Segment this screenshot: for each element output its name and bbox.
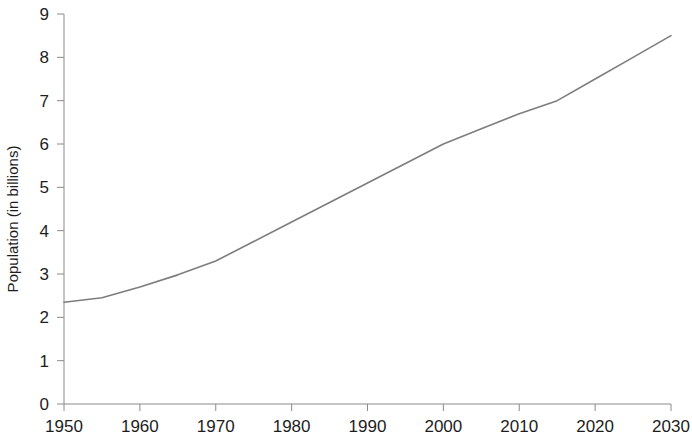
x-axis-tick-label: 1990: [349, 417, 387, 436]
y-axis-tick-label: 2: [40, 308, 49, 327]
y-axis-title-group: Population (in billions): [4, 146, 21, 293]
x-axis-tick-label: 2020: [576, 417, 614, 436]
y-axis-tick-label: 6: [40, 135, 49, 154]
x-axis-tick-label: 2010: [500, 417, 538, 436]
chart-canvas: 0123456789 19501960197019801990200020102…: [0, 0, 692, 438]
x-axis-tick-label: 1980: [273, 417, 311, 436]
y-axis-tick-label: 4: [40, 222, 49, 241]
y-axis-tick-label: 5: [40, 178, 49, 197]
series-line: [64, 36, 671, 303]
y-axis-tick-label: 9: [40, 5, 49, 24]
y-axis-tick-label: 3: [40, 265, 49, 284]
population-line-chart: 0123456789 19501960197019801990200020102…: [0, 0, 692, 438]
y-axis-title: Population (in billions): [4, 146, 21, 293]
x-axis-tick-label: 1960: [121, 417, 159, 436]
y-axis: 0123456789: [40, 5, 64, 414]
y-axis-tick-label: 8: [40, 48, 49, 67]
x-axis-tick-label: 2000: [424, 417, 462, 436]
x-axis: 195019601970198019902000201020202030: [45, 404, 690, 436]
x-axis-tick-label: 2030: [652, 417, 690, 436]
y-axis-tick-label: 0: [40, 395, 49, 414]
x-axis-tick-label: 1970: [197, 417, 235, 436]
y-axis-tick-label: 7: [40, 92, 49, 111]
y-axis-tick-label: 1: [40, 352, 49, 371]
data-series-group: [64, 36, 671, 303]
x-axis-tick-label: 1950: [45, 417, 83, 436]
